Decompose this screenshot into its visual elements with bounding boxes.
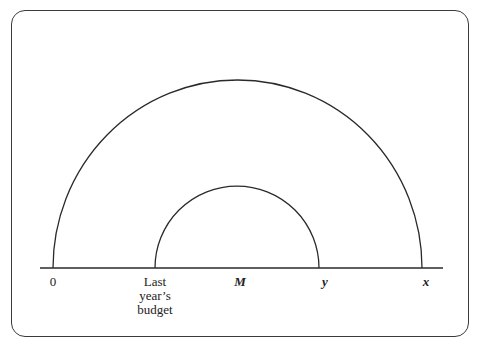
label-last-years-budget: Last year’s budget	[137, 275, 172, 317]
label-y: y	[322, 275, 328, 289]
label-zero: 0	[50, 275, 57, 289]
label-m: M	[234, 275, 246, 289]
outer-semicircle	[53, 80, 422, 268]
inner-semicircle	[155, 186, 319, 268]
diagram-canvas	[0, 0, 480, 355]
label-x: x	[423, 275, 430, 289]
label-last-line3: budget	[137, 303, 172, 317]
label-last-line1: Last	[137, 275, 172, 289]
label-last-line2: year’s	[137, 289, 172, 303]
